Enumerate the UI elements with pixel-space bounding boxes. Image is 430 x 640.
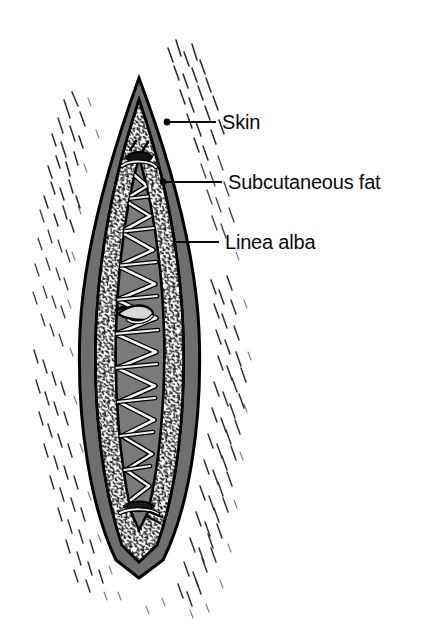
- figure-background: [0, 0, 430, 640]
- label-subcutaneous-fat: Subcutaneous fat: [228, 171, 381, 193]
- wound-closure-figure: Skin Subcutaneous fat Linea alba: [0, 0, 430, 640]
- label-skin: Skin: [222, 111, 260, 133]
- label-linea-alba: Linea alba: [225, 231, 316, 253]
- anatomy-illustration: Skin Subcutaneous fat Linea alba: [0, 0, 430, 640]
